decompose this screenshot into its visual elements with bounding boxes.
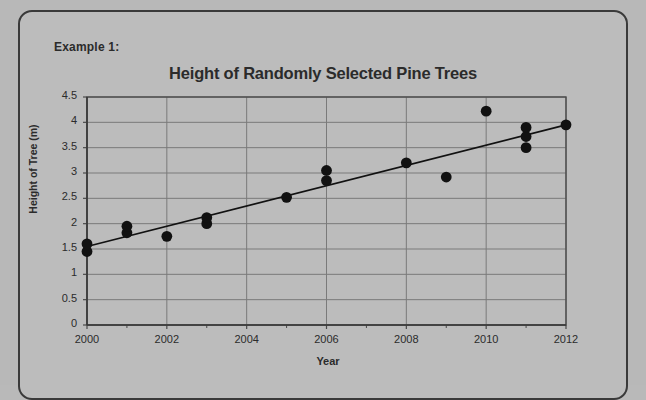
example-panel: Example 1: Height of Randomly Selected P… (18, 10, 628, 400)
chart-title: Height of Randomly Selected Pine Trees (20, 64, 626, 83)
example-label: Example 1: (54, 40, 119, 54)
